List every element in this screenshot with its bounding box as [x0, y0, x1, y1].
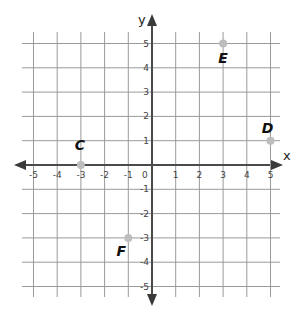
y-tick-label: 3	[143, 87, 149, 97]
x-tick-label: -4	[53, 170, 62, 180]
point-label: E	[218, 50, 228, 66]
y-tick-label: -3	[140, 233, 149, 243]
y-tick-label: -1	[140, 184, 149, 194]
point-marker-icon	[267, 137, 275, 145]
x-tick-label: 1	[173, 170, 179, 180]
x-tick-label: 4	[244, 170, 250, 180]
x-axis-name: x	[283, 148, 291, 163]
point-marker-icon	[77, 161, 85, 169]
coordinate-plane: x y 0 -5-4-3-2-112345-5-4-3-2-112345 CDE…	[0, 0, 303, 317]
x-tick-label: 5	[268, 170, 274, 180]
y-tick-label: -2	[140, 209, 149, 219]
y-axis-name: y	[138, 12, 146, 27]
point-label: D	[262, 120, 274, 136]
y-tick-label: -4	[140, 257, 149, 267]
x-tick-label: -5	[29, 170, 38, 180]
point-label: F	[117, 243, 127, 259]
x-tick-label: 2	[197, 170, 203, 180]
origin-label: 0	[142, 170, 148, 180]
y-axis-down-arrow-icon	[147, 294, 157, 306]
x-axis-right-arrow-icon	[271, 160, 283, 170]
point-label: C	[75, 137, 86, 153]
y-axis-up-arrow-icon	[147, 14, 157, 26]
x-axis-left-arrow-icon	[14, 160, 26, 170]
point-marker-icon	[219, 40, 227, 48]
point-marker-icon	[124, 234, 132, 242]
x-tick-label: 3	[220, 170, 226, 180]
y-tick-label: 2	[143, 111, 149, 121]
x-tick-label: -3	[76, 170, 85, 180]
x-tick-label: -2	[100, 170, 109, 180]
y-tick-label: -5	[140, 282, 149, 292]
y-tick-label: 1	[143, 136, 149, 146]
y-tick-label: 5	[143, 39, 149, 49]
x-tick-label: -1	[124, 170, 133, 180]
y-tick-label: 4	[143, 63, 149, 73]
point-e: E	[218, 40, 228, 66]
